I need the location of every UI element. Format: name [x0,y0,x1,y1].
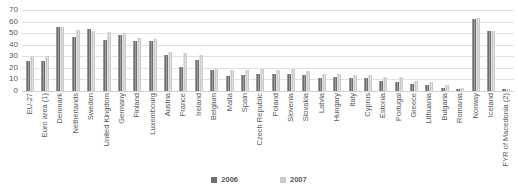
bar-2007 [460,88,464,91]
y-axis-tick-label: 40 [9,41,18,49]
y-axis-tick-label: 20 [9,64,18,72]
x-axis-tick-label: Greece [410,93,418,118]
x-axis-tick-label: Czech Republic [256,93,264,146]
x-axis-tick-label: Spain [241,93,249,112]
x-axis-tick-label: Cyprus [364,93,372,117]
bar-group [207,10,222,91]
bar-2007 [429,82,433,91]
bar-2007 [107,32,111,91]
bar-group [145,10,160,91]
bar-2007 [30,56,34,91]
bar-2007 [91,31,95,91]
bar-2007 [230,70,234,91]
bar-group [499,10,514,91]
bar-2007 [45,56,49,91]
bar-2007 [183,53,187,91]
legend-swatch-icon [211,177,217,183]
bar-group [268,10,283,91]
bar-2007 [322,74,326,91]
chart-legend: 20062007 [0,176,518,184]
legend-item-2007[interactable]: 2007 [280,176,307,184]
bar-group [376,10,391,91]
bar-group [237,10,252,91]
x-axis-tick-label: Italy [349,93,357,107]
bar-2007 [214,69,218,91]
bar-2007 [137,38,141,91]
bar-group [68,10,83,91]
bar-2007 [476,18,480,91]
x-axis-tick-label: Lithuania [425,93,433,123]
bar-group [299,10,314,91]
bar-group [37,10,52,91]
x-axis-tick-label: Bulgaria [441,93,449,121]
y-axis-tick-label: 30 [9,52,18,60]
bar-group [253,10,268,91]
bar-group [176,10,191,91]
x-axis-tick-label: Latvia [318,93,326,113]
x-axis-tick-label: Denmark [56,93,64,123]
x-axis-tick-label: Netherlands [72,93,80,133]
legend-swatch-icon [280,177,286,183]
bar-group [360,10,375,91]
bar-2007 [368,75,372,91]
y-axis-tick-label: 0 [14,87,18,95]
bar-2007 [506,89,510,91]
bar-group [22,10,37,91]
x-axis-tick-label: Poland [272,93,280,116]
bar-group [114,10,129,91]
bar-2007 [399,77,403,91]
x-axis-tick-label: Belgium [210,93,218,120]
bar-group [330,10,345,91]
x-axis-tick-label: Sweden [87,93,95,120]
x-axis-tick-label: FYR of Macedonia (2) [502,93,510,166]
bar-group [437,10,452,91]
bar-2007 [445,85,449,91]
bar-group [483,10,498,91]
y-axis-tick-label: 60 [9,18,18,26]
bar-group [453,10,468,91]
bar-group [406,10,421,91]
x-axis-tick-label: United Kingdom [103,93,111,146]
x-axis-tick-label: Malta [226,93,234,111]
x-axis-tick-label: Euro area (1) [41,93,49,137]
bar-2007 [414,81,418,91]
bar-2007 [245,70,249,91]
bar-2007 [291,69,295,91]
x-axis-tick-label: Luxembourg [149,93,157,135]
y-axis-tick-label: 10 [9,75,18,83]
bar-2007 [168,52,172,91]
y-axis-tick-label: 70 [9,6,18,14]
x-axis-tick-label: Finland [133,93,141,118]
x-axis-tick-label: Slovenia [287,93,295,122]
bar-group [130,10,145,91]
bar-group [222,10,237,91]
bar-group [314,10,329,91]
bar-2007 [383,77,387,91]
bar-group [422,10,437,91]
plot-area: 010203040506070 [22,10,514,91]
x-axis-tick-label: Norway [472,93,480,118]
legend-item-2006[interactable]: 2006 [211,176,238,184]
x-axis-tick-label: Estonia [379,93,387,118]
bar-group [99,10,114,91]
bar-group [345,10,360,91]
bar-2007 [260,69,264,91]
bar-2007 [199,55,203,91]
x-axis-tick-label: Germany [118,93,126,124]
x-axis-tick-label: Iceland [487,93,495,117]
legend-label: 2006 [221,176,238,184]
bar-group [391,10,406,91]
y-axis-tick-label: 50 [9,29,18,37]
bar-group [283,10,298,91]
x-axis-tick-label: Ireland [195,93,203,116]
x-axis-tick-label: France [179,93,187,116]
bar-2007 [122,33,126,91]
x-axis-tick-label: Hungary [333,93,341,121]
bar-2007 [76,30,80,91]
legend-label: 2007 [290,176,307,184]
x-axis-tick-label: Portugal [395,93,403,121]
bar-group [53,10,68,91]
bar-group [191,10,206,91]
bars-layer [22,10,514,91]
bar-group [84,10,99,91]
